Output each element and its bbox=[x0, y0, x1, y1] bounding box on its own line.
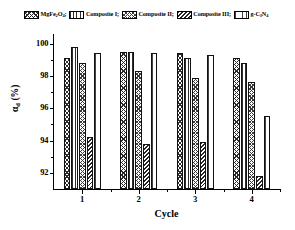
y-tick-96 bbox=[50, 108, 55, 109]
x-tick-minor-4 bbox=[280, 189, 281, 192]
y-tick-94 bbox=[50, 141, 55, 142]
bar-MgFe2O4-cycle4 bbox=[233, 58, 240, 189]
y-tick-label-96: 96 bbox=[40, 104, 48, 112]
bar-gC3N4-cycle2 bbox=[151, 53, 158, 189]
legend-label-1: Composite I; bbox=[86, 11, 119, 17]
bar-CompositeIII-cycle2 bbox=[143, 144, 150, 189]
bar-CompositeII-cycle3 bbox=[192, 78, 199, 189]
y-tick-label-100: 100 bbox=[36, 39, 49, 47]
bar-gC3N4-cycle4 bbox=[264, 116, 271, 189]
x-axis-title: Cycle bbox=[53, 209, 280, 219]
legend-label-3: Composite III; bbox=[193, 11, 231, 17]
bar-CompositeIII-cycle3 bbox=[200, 142, 207, 189]
legend-entry-3: Composite III; bbox=[177, 11, 231, 19]
legend-swatch-2 bbox=[122, 11, 137, 19]
y-tick-label-98: 98 bbox=[40, 72, 48, 80]
plot-inner bbox=[54, 34, 280, 189]
y-tick-minor-99 bbox=[51, 60, 54, 61]
y-axis-title: αd (%) bbox=[10, 85, 21, 112]
x-tick-3 bbox=[195, 189, 196, 194]
y-tick-label-94: 94 bbox=[40, 136, 48, 144]
x-tick-label-3: 3 bbox=[193, 195, 197, 204]
legend-swatch-3 bbox=[177, 11, 192, 19]
legend-label-0: MgFe2O4; bbox=[41, 11, 67, 18]
bar-CompositeII-cycle2 bbox=[135, 71, 142, 189]
bar-CompositeIII-cycle4 bbox=[256, 176, 263, 189]
y-tick-minor-93 bbox=[51, 157, 54, 158]
bar-CompositeII-cycle4 bbox=[248, 82, 255, 189]
bar-gC3N4-cycle1 bbox=[94, 53, 101, 189]
bar-MgFe2O4-cycle1 bbox=[64, 58, 71, 189]
y-tick-minor-95 bbox=[51, 124, 54, 125]
x-tick-label-2: 2 bbox=[137, 195, 141, 204]
x-tick-label-4: 4 bbox=[250, 195, 254, 204]
legend-swatch-0 bbox=[24, 11, 39, 19]
legend-entry-2: Composite II; bbox=[122, 11, 174, 19]
y-tick-minor-97 bbox=[51, 92, 54, 93]
bar-CompositeII-cycle1 bbox=[79, 63, 86, 189]
x-tick-label-1: 1 bbox=[80, 195, 84, 204]
y-tick-92 bbox=[50, 173, 55, 174]
x-tick-4 bbox=[252, 189, 253, 194]
bar-gC3N4-cycle3 bbox=[207, 55, 214, 189]
y-tick-100 bbox=[50, 44, 55, 45]
legend-swatch-1 bbox=[69, 11, 84, 19]
x-tick-minor-3 bbox=[224, 189, 225, 192]
bar-CompositeIII-cycle1 bbox=[87, 137, 94, 189]
bar-CompositeI-cycle4 bbox=[241, 63, 248, 189]
x-tick-1 bbox=[82, 189, 83, 194]
x-tick-2 bbox=[139, 189, 140, 194]
legend-label-2: Composite II; bbox=[138, 11, 173, 17]
legend-swatch-4 bbox=[234, 11, 249, 19]
plot-area: 929496981001234 bbox=[53, 34, 280, 190]
bar-MgFe2O4-cycle3 bbox=[177, 53, 184, 189]
legend-entry-1: Composite I; bbox=[69, 11, 119, 19]
y-tick-label-92: 92 bbox=[40, 169, 48, 177]
bar-MgFe2O4-cycle2 bbox=[120, 52, 127, 189]
figure-bar-chart: MgFe2O4;Composite I;Composite II;Composi… bbox=[0, 0, 295, 230]
legend-entry-4: g-C3N4 bbox=[234, 11, 268, 19]
x-tick-minor-2 bbox=[167, 189, 168, 192]
x-tick-minor-1 bbox=[111, 189, 112, 192]
y-tick-98 bbox=[50, 76, 55, 77]
bar-CompositeI-cycle2 bbox=[128, 52, 135, 189]
legend-label-4: g-C3N4 bbox=[250, 11, 268, 18]
bar-CompositeI-cycle3 bbox=[184, 58, 191, 189]
chart-legend: MgFe2O4;Composite I;Composite II;Composi… bbox=[24, 8, 286, 21]
bar-CompositeI-cycle1 bbox=[71, 47, 78, 189]
legend-entry-0: MgFe2O4; bbox=[24, 11, 66, 19]
